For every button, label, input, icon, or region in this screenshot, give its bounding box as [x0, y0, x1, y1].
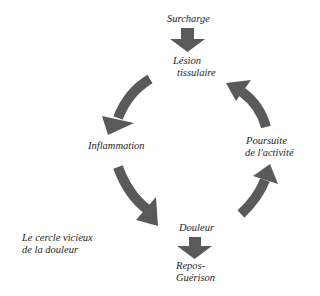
node-repos-line2: Guérison — [176, 272, 215, 284]
node-surcharge: Surcharge — [167, 13, 210, 25]
node-poursuite-line1: Poursuite — [246, 135, 287, 147]
curved-arrow-poursuite-to-lesion-icon — [226, 80, 266, 127]
curved-arrow-inflammation-to-douleur-icon — [118, 167, 158, 226]
node-douleur: Douleur — [179, 222, 214, 234]
node-inflammation: Inflammation — [88, 140, 145, 152]
down-arrow-douleur-icon — [177, 237, 212, 259]
curved-arrow-lesion-to-inflammation-icon — [102, 79, 150, 135]
node-lesion-line2: tissulaire — [177, 67, 216, 79]
node-repos-line1: Repos- — [176, 260, 205, 272]
diagram-title-line1: Le cercle vicieux — [22, 232, 93, 244]
node-poursuite-line2: de l'activité — [245, 147, 294, 159]
curved-arrow-douleur-to-poursuite-icon — [241, 164, 278, 214]
node-lesion-line1: Lésion — [173, 55, 201, 67]
diagram-title-line2: de la douleur — [22, 244, 78, 256]
down-arrow-surcharge-icon — [170, 28, 205, 52]
